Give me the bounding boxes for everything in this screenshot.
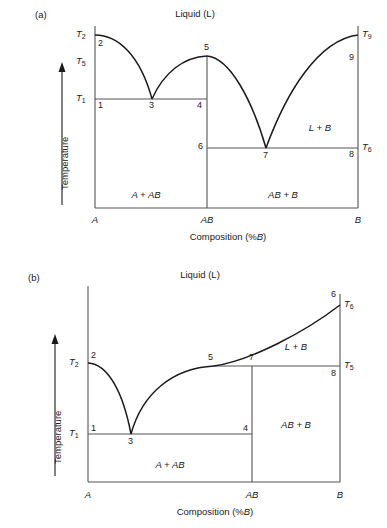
panel-a-liquidus-e1-to-ab	[152, 56, 207, 99]
panel-b-temp-label-t5-base: T	[344, 359, 350, 370]
panel-b-region-ab-b: AB + B	[281, 420, 311, 430]
panel-b-temp-label-t2-base: T	[69, 356, 75, 367]
panel-a-point-4: 4	[197, 101, 202, 110]
panel-a-point-6: 6	[198, 142, 203, 151]
panel-b-point-6: 6	[331, 290, 336, 299]
panel-a-temp-label-t1: T1	[76, 93, 86, 103]
panel-b-region-a-ab: A + AB	[155, 460, 184, 470]
panel-a-temp-label-t2: T2	[76, 29, 86, 39]
panel-b-temp-label-t6-base: T	[344, 298, 350, 309]
panel-b-point-7: 7	[249, 353, 254, 362]
panel-a-temperature-arrow-head	[59, 62, 66, 72]
panel-b-liquidus-peritectic-to-b	[214, 305, 340, 366]
panel-a-temp-label-t5-base: T	[76, 55, 82, 66]
panel-a-region-ab-b: AB + B	[268, 190, 298, 200]
panel-a-temp-label-t6-sub: 6	[368, 146, 372, 153]
panel-a-liquidus-a-to-e1	[95, 35, 152, 99]
panel-b-temp-label-t6: T6	[344, 299, 354, 309]
panel-b-point-1: 1	[91, 424, 96, 433]
panel-a-y-axis-label: Temperature	[59, 137, 70, 190]
panel-b-x-axis-label: Composition (%B)	[177, 507, 254, 517]
panel-a-temp-label-t5-sub: 5	[82, 60, 86, 67]
panel-a-temp-label-t9-base: T	[362, 28, 368, 39]
panel-b-point-5: 5	[208, 353, 213, 362]
panel-a-temp-label-t6-base: T	[362, 141, 368, 152]
panel-a-temp-label-t2-sub: 2	[82, 33, 86, 40]
panel-a-region-l-b: L + B	[309, 123, 331, 133]
panel-b-graphics	[0, 264, 387, 528]
phase-diagram-panel-b: (b) Liquid (L) Temperature T2 T1 T6 T5 2…	[0, 264, 387, 528]
panel-b-temp-label-t5: T5	[344, 360, 354, 370]
panel-b-temp-label-t1-base: T	[69, 427, 75, 438]
panel-a-x-axis-label: Composition (%B)	[190, 232, 267, 242]
panel-a-point-2: 2	[98, 39, 103, 48]
panel-b-xtick-ab: AB	[246, 490, 259, 500]
panel-a-point-8: 8	[349, 150, 354, 159]
panel-b-point-8: 8	[331, 369, 336, 378]
panel-b-temperature-arrow-head	[52, 334, 59, 344]
panel-a-xtick-ab: AB	[201, 215, 214, 225]
panel-a-point-5: 5	[204, 43, 209, 52]
panel-a-temp-label-t6: T6	[362, 142, 372, 152]
panel-a-liquidus-ab-to-e2	[207, 56, 266, 148]
panel-b-liquidus-e1-to-peritectic	[131, 366, 214, 434]
panel-b-temp-label-t5-sub: 5	[350, 364, 354, 371]
panel-a-x-axis-label-suffix: )	[263, 231, 266, 242]
panel-b-title: Liquid (L)	[180, 270, 220, 280]
panel-b-point-3: 3	[128, 437, 133, 446]
panel-a-point-7: 7	[263, 151, 268, 160]
panel-b-temp-label-t2-sub: 2	[75, 361, 79, 368]
panel-b-x-axis-label-suffix: )	[250, 506, 253, 517]
panel-a-point-9: 9	[349, 53, 354, 62]
panel-b-region-l-b: L + B	[285, 342, 307, 352]
panel-b-point-4: 4	[243, 424, 248, 433]
panel-a-temp-label-t2-base: T	[76, 28, 82, 39]
panel-a-xtick-b: B	[355, 215, 361, 225]
panel-a-tag: (a)	[35, 10, 47, 20]
panel-b-temp-label-t6-sub: 6	[350, 303, 354, 310]
panel-b-tag: (b)	[28, 273, 40, 283]
panel-a-temp-label-t1-sub: 1	[82, 97, 86, 104]
panel-a-temp-label-t9: T9	[362, 29, 372, 39]
panel-b-xtick-b: B	[337, 490, 343, 500]
panel-b-temp-label-t1: T1	[69, 428, 79, 438]
panel-b-xtick-a: A	[85, 490, 91, 500]
panel-a-temp-label-t5: T5	[76, 56, 86, 66]
panel-a-temp-label-t1-base: T	[76, 92, 82, 103]
panel-b-y-axis-label: Temperature	[52, 411, 63, 464]
panel-b-point-2: 2	[91, 351, 96, 360]
panel-a-x-axis-label-prefix: Composition (%	[190, 231, 257, 242]
panel-a-point-1: 1	[98, 101, 103, 110]
panel-a-point-3: 3	[149, 101, 154, 110]
panel-a-region-a-ab: A + AB	[131, 190, 160, 200]
panel-b-x-axis-label-prefix: Composition (%	[177, 506, 244, 517]
panel-a-xtick-a: A	[92, 215, 98, 225]
phase-diagram-panel-a: (a) Liquid (L) Temperature T2 T5 T1 T9 T…	[0, 0, 387, 264]
panel-a-title: Liquid (L)	[175, 9, 215, 19]
panel-a-temp-label-t9-sub: 9	[368, 33, 372, 40]
panel-b-temp-label-t1-sub: 1	[75, 432, 79, 439]
panel-b-temp-label-t2: T2	[69, 357, 79, 367]
